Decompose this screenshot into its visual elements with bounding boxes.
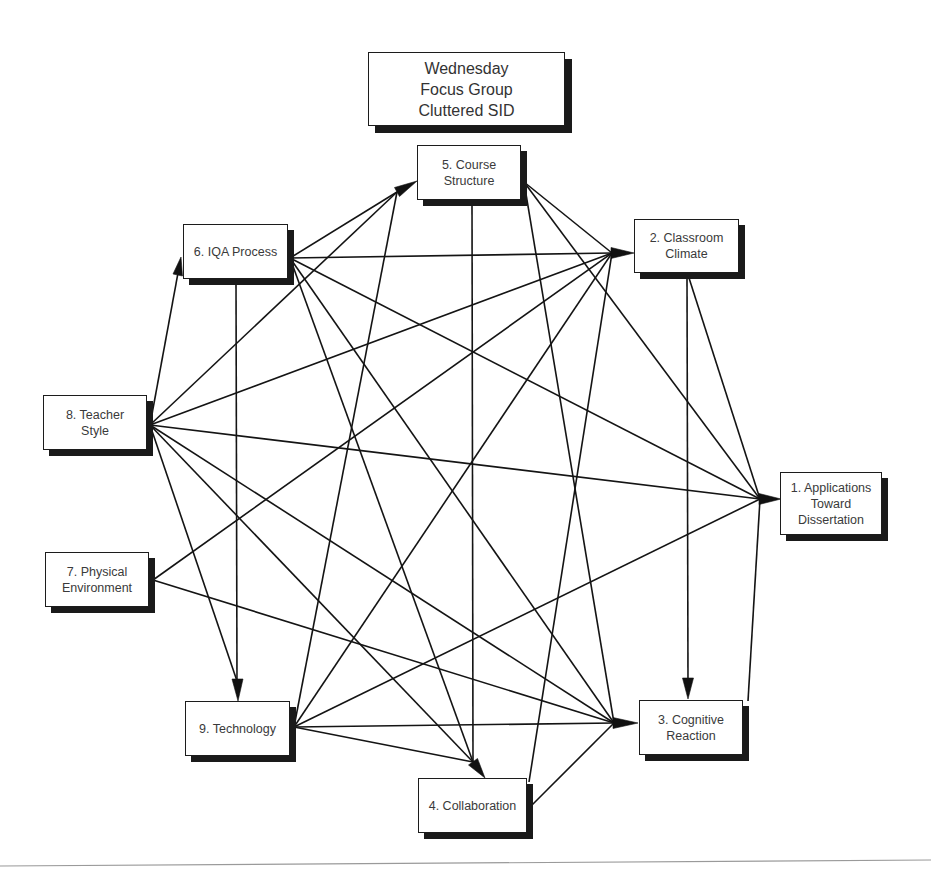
edge-9-to-3 [294,723,614,727]
node-5-course-structure[interactable]: 5. Course Structure [417,145,521,200]
node-4-collaboration[interactable]: 4. Collaboration [418,778,527,833]
title-line-1: Wednesday [424,58,508,79]
diagram-title-box: Wednesday Focus Group Cluttered SID [368,52,565,126]
arrowhead-into-2-icon [611,248,634,259]
edge-9-to-4 [294,727,473,762]
edge-5-to-4 [472,203,473,762]
edge-4-to-3 [531,723,614,806]
node-label: Toward [811,496,851,512]
arrowhead-into-6-icon [173,257,183,276]
node-label: 3. Cognitive [658,712,724,728]
node-label: Climate [665,246,707,262]
node-8-teacher-style[interactable]: 8. Teacher Style [43,395,147,450]
edge-5-to-3 [524,182,614,723]
edge-2-to-3 [687,278,688,681]
sid-diagram: Wednesday Focus Group Cluttered SID 5. C… [0,0,931,888]
node-label: Reaction [666,728,715,744]
arrowhead-into-3-icon [613,718,638,729]
node-label: 9. Technology [199,721,276,737]
node-label: 7. Physical [67,564,127,580]
node-9-technology[interactable]: 9. Technology [185,701,290,756]
node-6-iqa-process[interactable]: 6. IQA Process [183,224,288,279]
node-2-classroom-climate[interactable]: 2. Classroom Climate [634,219,739,273]
node-label: Environment [62,580,132,596]
arrowhead-2-into-3-icon [683,678,694,699]
edge-6-to-4 [290,258,473,762]
node-label: 6. IQA Process [194,244,277,260]
node-1-applications-toward-dissertation[interactable]: 1. Applications Toward Dissertation [780,472,882,535]
node-label: Structure [444,173,495,189]
edge-3-to-1 [748,499,760,701]
page-bottom-rule [0,860,931,866]
edge-6-to-5 [290,192,397,258]
node-label: 2. Classroom [650,230,724,246]
node-label: 8. Teacher [66,407,124,423]
title-line-3: Cluttered SID [418,100,514,121]
edge-8-to-9 [150,425,237,681]
edge-9-to-2 [294,253,612,727]
node-3-cognitive-reaction[interactable]: 3. Cognitive Reaction [639,700,743,755]
arrowhead-into-9-icon [232,679,243,701]
node-label: 4. Collaboration [429,798,517,814]
edge-9-to-5 [294,192,397,727]
node-label: Style [81,423,109,439]
title-line-2: Focus Group [420,79,512,100]
edge-9-to-1 [294,499,760,727]
arrowhead-into-5-icon [395,181,418,197]
node-label: 5. Course [442,157,496,173]
node-label: 1. Applications [791,480,872,496]
node-label: Dissertation [798,512,864,528]
edge-7-to-2 [153,253,612,580]
edge-2-to-1 [689,278,760,499]
edge-8-to-3 [150,425,614,723]
arrowhead-into-1-icon [759,494,781,505]
node-7-physical-environment[interactable]: 7. Physical Environment [45,552,149,607]
edge-6-to-2 [290,253,612,258]
